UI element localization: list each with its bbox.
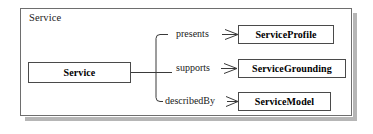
node-service-grounding[interactable]: ServiceGrounding xyxy=(238,59,346,78)
frame-shadow-right xyxy=(353,13,357,120)
node-service-model-label: ServiceModel xyxy=(255,96,315,107)
edge-label-supports: supports xyxy=(174,62,212,74)
node-service[interactable]: Service xyxy=(28,62,131,83)
node-service-profile[interactable]: ServiceProfile xyxy=(238,25,334,44)
edge-label-describedby: describedBy xyxy=(163,95,217,107)
frame-shadow-bottom xyxy=(25,117,357,121)
edge-label-presents: presents xyxy=(174,28,211,40)
package-title: Service xyxy=(29,12,61,23)
diagram-canvas: Service Service ServiceProfile ServiceGr… xyxy=(0,0,373,134)
node-service-label: Service xyxy=(64,67,96,78)
node-service-profile-label: ServiceProfile xyxy=(255,29,316,40)
node-service-model[interactable]: ServiceModel xyxy=(238,92,331,111)
node-service-grounding-label: ServiceGrounding xyxy=(252,63,332,74)
